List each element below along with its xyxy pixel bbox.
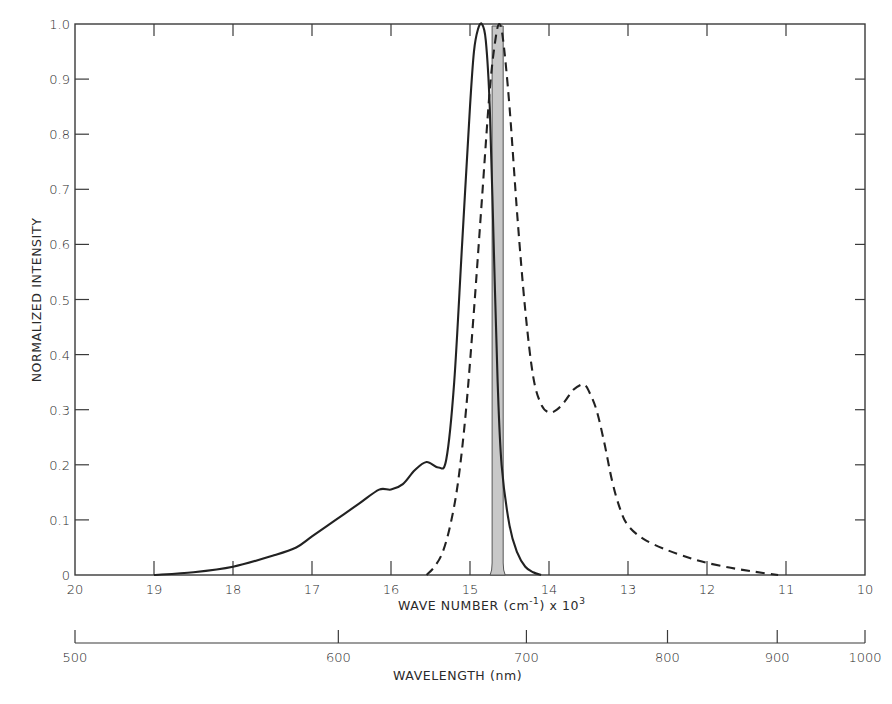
laser-band xyxy=(490,26,505,575)
x-tick-label: 17 xyxy=(304,582,321,597)
x-tick-label: 16 xyxy=(383,582,400,597)
solid-curve-path xyxy=(154,23,541,575)
y-tick-label: 0.3 xyxy=(49,403,70,418)
x-tick-label: 20 xyxy=(67,582,84,597)
x-tick-label: 18 xyxy=(225,582,242,597)
wavelength-tick-label: 600 xyxy=(326,650,351,665)
y-tick-label: 0.5 xyxy=(49,293,70,308)
wavelength-tick-label: 800 xyxy=(655,650,680,665)
x-tick-label: 19 xyxy=(146,582,163,597)
x-tick-label: 13 xyxy=(620,582,637,597)
wavelength-tick-label: 1000 xyxy=(848,650,881,665)
y-axis-title: NORMALIZED INTENSITY xyxy=(29,218,44,383)
spectrum-chart: 00.10.20.30.40.50.60.70.80.91.0 20191817… xyxy=(0,0,892,704)
x-axis-title: WAVE NUMBER (cm-1) x 103 xyxy=(398,596,585,613)
x-tick-label: 15 xyxy=(462,582,479,597)
x-tick-label: 14 xyxy=(541,582,558,597)
wavelength-tick-label: 700 xyxy=(514,650,539,665)
y-tick-label: 0.6 xyxy=(49,237,70,252)
y-tick-label: 0.4 xyxy=(49,348,70,363)
x-tick-label: 10 xyxy=(857,582,874,597)
x-tick-label: 11 xyxy=(778,582,795,597)
y-axis-ticks: 00.10.20.30.40.50.60.70.80.91.0 xyxy=(49,17,865,583)
dashed-curve-path xyxy=(427,24,779,575)
wavelength-axis: 5006007008009001000 xyxy=(63,630,882,665)
wavelength-axis-title: WAVELENGTH (nm) xyxy=(393,668,522,683)
y-tick-label: 0.1 xyxy=(49,513,70,528)
wavelength-tick-label: 900 xyxy=(765,650,790,665)
y-tick-label: 1.0 xyxy=(49,17,70,32)
y-tick-label: 0 xyxy=(62,568,70,583)
y-tick-label: 0.8 xyxy=(49,127,70,142)
solid-curve xyxy=(154,23,541,575)
y-tick-label: 0.7 xyxy=(49,182,70,197)
shaded-band xyxy=(490,26,505,575)
x-tick-label: 12 xyxy=(699,582,716,597)
wavelength-tick-label: 500 xyxy=(63,650,88,665)
dashed-curve xyxy=(427,24,779,575)
y-tick-label: 0.9 xyxy=(49,72,70,87)
y-tick-label: 0.2 xyxy=(49,458,70,473)
